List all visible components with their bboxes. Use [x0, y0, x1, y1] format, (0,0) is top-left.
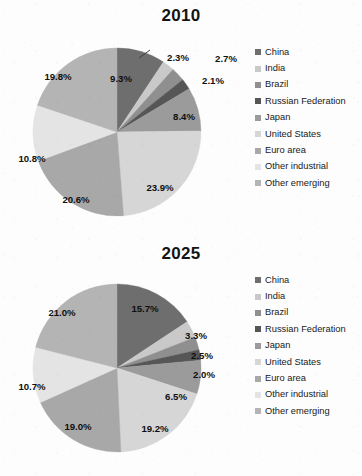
- pie-chart-panel-2025: 2025 ChinaIndiaBrazilRussian FederationJ…: [0, 238, 362, 476]
- legend-swatch-icon: [255, 49, 261, 55]
- legend-item-india[interactable]: India: [255, 288, 346, 304]
- legend-swatch-icon: [255, 277, 261, 283]
- legend-item-label: Euro area: [265, 146, 306, 155]
- legend-item-other-emerging[interactable]: Other emerging: [255, 175, 346, 191]
- legend-swatch-icon: [255, 376, 261, 382]
- legend-item-label: Brazil: [265, 308, 288, 317]
- legend-item-other-emerging[interactable]: Other emerging: [255, 403, 346, 419]
- slice-percent-label: 19.8%: [44, 71, 71, 82]
- legend-swatch-icon: [255, 131, 261, 137]
- legend-item-brazil[interactable]: Brazil: [255, 77, 346, 93]
- legend-item-label: Brazil: [265, 80, 288, 89]
- legend-item-label: India: [265, 292, 285, 301]
- legend-item-label: China: [265, 48, 289, 57]
- slice-percent-label: 10.8%: [18, 153, 45, 164]
- legend-2025: ChinaIndiaBrazilRussian FederationJapanU…: [255, 272, 346, 420]
- legend-swatch-icon: [255, 115, 261, 121]
- slice-percent-label: 3.3%: [185, 330, 207, 341]
- legend-item-russian-federation[interactable]: Russian Federation: [255, 321, 346, 337]
- slice-percent-label: 15.7%: [131, 303, 158, 314]
- slice-percent-label: 19.0%: [64, 421, 91, 432]
- legend-item-russian-federation[interactable]: Russian Federation: [255, 93, 346, 109]
- slice-percent-label: 23.9%: [146, 182, 173, 193]
- legend-swatch-icon: [255, 164, 261, 170]
- legend-swatch-icon: [255, 294, 261, 300]
- legend-item-euro-area[interactable]: Euro area: [255, 142, 346, 158]
- legend-item-label: Russian Federation: [265, 325, 346, 334]
- legend-item-label: Russian Federation: [265, 97, 346, 106]
- chart-title-2025: 2025: [0, 244, 362, 264]
- legend-item-label: Other emerging: [265, 179, 330, 188]
- legend-item-united-states[interactable]: United States: [255, 354, 346, 370]
- slice-percent-label: 2.5%: [191, 350, 213, 361]
- slice-percent-label: 2.1%: [202, 75, 224, 86]
- legend-item-label: India: [265, 64, 285, 73]
- chart-title-2010: 2010: [0, 6, 362, 26]
- legend-item-other-industrial[interactable]: Other industrial: [255, 387, 346, 403]
- legend-item-euro-area[interactable]: Euro area: [255, 370, 346, 386]
- legend-swatch-icon: [255, 148, 261, 154]
- legend-swatch-icon: [255, 310, 261, 316]
- legend-2010: ChinaIndiaBrazilRussian FederationJapanU…: [255, 44, 346, 192]
- legend-item-label: United States: [265, 130, 321, 139]
- legend-item-label: Japan: [265, 113, 290, 122]
- slice-percent-label: 9.3%: [110, 73, 132, 84]
- legend-item-label: Other emerging: [265, 407, 330, 416]
- slice-percent-label: 19.2%: [141, 423, 168, 434]
- legend-swatch-icon: [255, 180, 261, 186]
- slice-percent-label: 2.0%: [193, 369, 215, 380]
- legend-swatch-icon: [255, 343, 261, 349]
- slice-percent-label: 6.5%: [165, 391, 187, 402]
- slice-percent-label: 2.7%: [215, 53, 237, 64]
- legend-item-united-states[interactable]: United States: [255, 126, 346, 142]
- legend-item-other-industrial[interactable]: Other industrial: [255, 159, 346, 175]
- legend-item-label: Other industrial: [265, 162, 328, 171]
- legend-item-label: China: [265, 276, 289, 285]
- legend-swatch-icon: [255, 359, 261, 365]
- slice-percent-label: 8.4%: [173, 111, 195, 122]
- legend-swatch-icon: [255, 408, 261, 414]
- legend-item-china[interactable]: China: [255, 272, 346, 288]
- slice-percent-label: 10.7%: [18, 381, 45, 392]
- slice-percent-label: 2.3%: [167, 52, 189, 63]
- legend-item-label: Euro area: [265, 374, 306, 383]
- legend-swatch-icon: [255, 326, 261, 332]
- slice-percent-label: 20.6%: [62, 194, 89, 205]
- legend-item-japan[interactable]: Japan: [255, 110, 346, 126]
- legend-item-india[interactable]: India: [255, 60, 346, 76]
- pie-slice-united-states[interactable]: [117, 131, 201, 216]
- legend-swatch-icon: [255, 98, 261, 104]
- legend-item-label: Japan: [265, 341, 290, 350]
- legend-swatch-icon: [255, 392, 261, 398]
- legend-swatch-icon: [255, 66, 261, 72]
- legend-item-label: United States: [265, 358, 321, 367]
- legend-item-japan[interactable]: Japan: [255, 338, 346, 354]
- legend-item-china[interactable]: China: [255, 44, 346, 60]
- legend-item-brazil[interactable]: Brazil: [255, 305, 346, 321]
- pie-chart-panel-2010: 2010 ChinaIndiaBrazilRussian FederationJ…: [0, 0, 362, 238]
- legend-item-label: Other industrial: [265, 390, 328, 399]
- legend-swatch-icon: [255, 82, 261, 88]
- slice-percent-label: 21.0%: [48, 307, 75, 318]
